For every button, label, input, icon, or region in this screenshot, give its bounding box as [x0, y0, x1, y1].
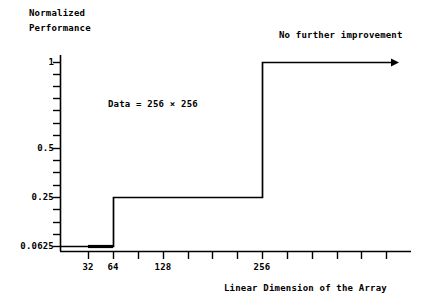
- chart-plot-area: [0, 0, 421, 306]
- step-function-series: [61, 63, 394, 247]
- chart-figure: Normalized Performance Linear Dimension …: [0, 0, 421, 306]
- arrow-head-icon: [391, 59, 399, 67]
